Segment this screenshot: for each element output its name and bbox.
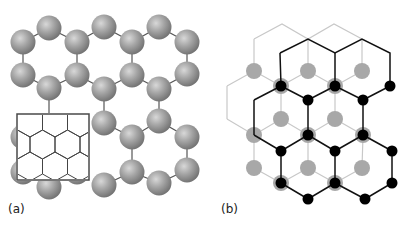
panel-a: (a): [0, 0, 205, 229]
panel-b: (b): [205, 0, 410, 229]
inset-lattice: [5, 108, 105, 181]
black-atoms: [276, 81, 398, 205]
panel-b-diagram: [205, 0, 410, 229]
panel-a-label: (a): [8, 202, 25, 216]
gray-lattice: [227, 24, 363, 183]
panel-a-diagram: [0, 0, 205, 229]
panel-b-label: (b): [221, 202, 238, 216]
